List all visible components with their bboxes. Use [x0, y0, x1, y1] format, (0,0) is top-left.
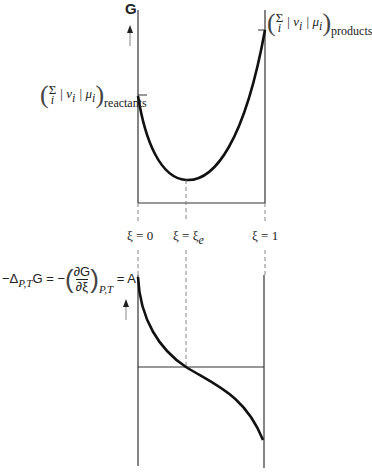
affinity-curve	[138, 277, 263, 440]
xi-eq-text: ξ = ξ	[173, 228, 198, 243]
fraction-numerator: ∂G	[74, 264, 91, 279]
xi-eq-sub: e	[198, 233, 203, 247]
bottom-plot	[123, 275, 264, 468]
delta-sub: P,T	[18, 277, 32, 289]
top-plot	[127, 10, 265, 203]
products-subscript: products	[331, 24, 372, 38]
xi-equilibrium-label: ξ = ξe	[173, 228, 204, 248]
mu-term: | μ	[75, 86, 92, 101]
affinity-symbol: = A	[117, 271, 136, 286]
reactants-subscript: reactants	[104, 96, 147, 110]
partial-sub: P,T	[99, 283, 113, 295]
products-chemical-potential-label: (Σi | νi | μi)products	[267, 8, 372, 38]
affinity-equation: −ΔP,TG = −(∂G∂ξ)P,T = A	[2, 264, 136, 295]
mu-term: | μ	[302, 14, 319, 29]
sum-index: i	[51, 93, 54, 107]
nu-term: | ν	[287, 14, 300, 29]
nu-term: | ν	[60, 86, 73, 101]
up-arrow-icon	[127, 25, 133, 33]
gibbs-energy-curve	[138, 30, 265, 180]
g-term: G = −	[32, 271, 65, 286]
sum-index: i	[278, 21, 281, 35]
up-arrow-icon	[123, 299, 129, 307]
delta-term: −Δ	[2, 271, 18, 286]
g-axis-label: G	[125, 0, 137, 17]
xi-one-label: ξ = 1	[252, 228, 278, 244]
fraction-denominator: ∂ξ	[76, 279, 88, 294]
reactants-chemical-potential-label: (Σi | νi | μi)reactants	[40, 80, 147, 110]
xi-zero-label: ξ = 0	[127, 228, 153, 244]
